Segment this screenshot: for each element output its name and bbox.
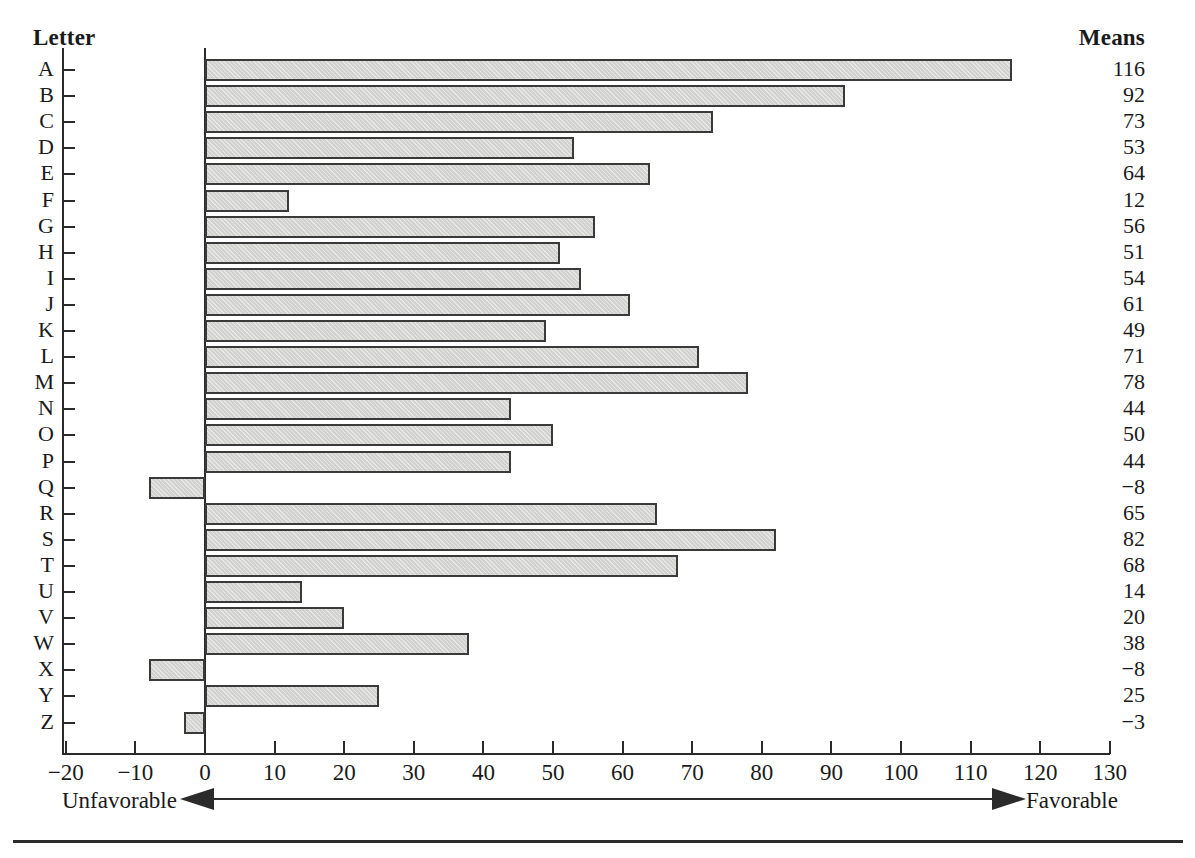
bar [205, 529, 776, 551]
mean-value: 44 [1065, 397, 1145, 419]
bar [205, 346, 699, 368]
y-axis-tick [62, 200, 75, 202]
y-axis-tick [62, 95, 75, 97]
y-axis-label: Z [18, 711, 54, 733]
bar [205, 85, 845, 107]
y-axis-tick [62, 643, 75, 645]
y-axis-label: I [18, 267, 54, 289]
y-axis-tick [62, 173, 75, 175]
y-axis-tick [62, 147, 75, 149]
mean-value: 92 [1065, 84, 1145, 106]
bar [205, 59, 1012, 81]
y-axis-tick [62, 513, 75, 515]
bar [205, 137, 574, 159]
y-axis-label: P [18, 450, 54, 472]
x-axis-tick [691, 741, 693, 754]
x-axis-tick [970, 741, 972, 754]
y-axis-tick [62, 591, 75, 593]
mean-value: 65 [1065, 502, 1145, 524]
bar [205, 111, 713, 133]
x-axis-tick-label: 130 [1065, 760, 1155, 785]
y-axis-label: M [18, 371, 54, 393]
y-axis-label: H [18, 241, 54, 263]
y-axis-tick [62, 722, 75, 724]
x-axis-tick [552, 741, 554, 754]
bottom-divider [13, 840, 1183, 843]
mean-value: 44 [1065, 450, 1145, 472]
direction-arrow-icon [180, 786, 1026, 812]
unfavorable-label: Unfavorable [62, 788, 177, 813]
x-axis-tick [482, 741, 484, 754]
y-axis-tick [62, 408, 75, 410]
y-axis-label: Y [18, 684, 54, 706]
y-axis-label: J [18, 293, 54, 315]
y-axis-label: S [18, 528, 54, 550]
y-axis-tick [62, 695, 75, 697]
mean-value: 64 [1065, 162, 1145, 184]
y-axis-tick [62, 565, 75, 567]
x-axis-tick [65, 741, 67, 754]
y-axis-label: X [18, 658, 54, 680]
y-axis-label: T [18, 554, 54, 576]
mean-value: 38 [1065, 632, 1145, 654]
mean-value: 68 [1065, 554, 1145, 576]
bar [205, 190, 289, 212]
y-axis-label: G [18, 215, 54, 237]
bar [205, 398, 511, 420]
x-axis-tick [204, 741, 206, 754]
y-axis-label: K [18, 319, 54, 341]
mean-value: 50 [1065, 423, 1145, 445]
y-axis-tick [62, 330, 75, 332]
bar [205, 555, 678, 577]
mean-value: −8 [1065, 476, 1145, 498]
bar [205, 607, 344, 629]
y-axis-tick [62, 356, 75, 358]
mean-value: 82 [1065, 528, 1145, 550]
bar [205, 503, 657, 525]
mean-value: −3 [1065, 711, 1145, 733]
bar [205, 163, 650, 185]
bar [205, 294, 630, 316]
bar [205, 451, 511, 473]
y-axis-label: A [18, 58, 54, 80]
y-axis-label: E [18, 162, 54, 184]
x-axis-tick [761, 741, 763, 754]
y-axis-tick [62, 278, 75, 280]
bar [205, 242, 560, 264]
bar [205, 685, 379, 707]
bar [205, 216, 595, 238]
bar [149, 659, 205, 681]
y-axis-tick [62, 617, 75, 619]
mean-value: 25 [1065, 684, 1145, 706]
y-axis-tick [62, 121, 75, 123]
mean-value: 20 [1065, 606, 1145, 628]
bar [205, 633, 469, 655]
means-column-header: Means [1079, 25, 1145, 51]
y-axis-label: D [18, 136, 54, 158]
x-axis-tick [343, 741, 345, 754]
y-axis-label: F [18, 189, 54, 211]
mean-value: 71 [1065, 345, 1145, 367]
mean-value: 56 [1065, 215, 1145, 237]
y-axis-tick [62, 434, 75, 436]
y-axis-label: N [18, 397, 54, 419]
mean-value: −8 [1065, 658, 1145, 680]
x-axis-tick [1039, 741, 1041, 754]
mean-value: 49 [1065, 319, 1145, 341]
x-axis-tick [622, 741, 624, 754]
y-axis-label: V [18, 606, 54, 628]
x-axis-tick [134, 741, 136, 754]
y-axis-tick [62, 252, 75, 254]
mean-value: 116 [1065, 58, 1145, 80]
x-axis-tick [900, 741, 902, 754]
mean-value: 14 [1065, 580, 1145, 602]
y-axis-line [62, 48, 64, 755]
y-axis-label: B [18, 84, 54, 106]
y-axis-tick [62, 487, 75, 489]
y-axis-label: O [18, 423, 54, 445]
bar [149, 477, 205, 499]
mean-value: 54 [1065, 267, 1145, 289]
y-axis-tick [62, 539, 75, 541]
x-axis-tick [830, 741, 832, 754]
x-axis-tick [413, 741, 415, 754]
